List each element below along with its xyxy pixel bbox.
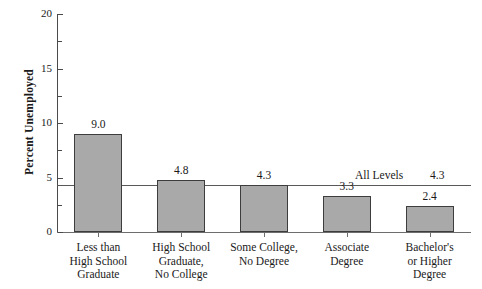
category-label-line: Degree bbox=[305, 255, 388, 269]
x-axis-category-label: AssociateDegree bbox=[305, 241, 388, 268]
y-tick-major bbox=[58, 14, 63, 15]
category-label-line: Bachelor's bbox=[388, 241, 471, 255]
x-tick bbox=[181, 233, 182, 237]
category-label-line: or Higher bbox=[388, 255, 471, 269]
category-label-line: Associate bbox=[305, 241, 388, 255]
category-label-line: High School bbox=[57, 255, 140, 269]
x-axis-category-label: High SchoolGraduate,No College bbox=[140, 241, 223, 282]
y-tick-label: 10 bbox=[30, 117, 52, 128]
x-tick bbox=[430, 233, 431, 237]
bar-value-label: 2.4 bbox=[400, 190, 460, 202]
bar-value-label: 9.0 bbox=[68, 118, 128, 130]
category-label-line: Less than bbox=[57, 241, 140, 255]
reference-line-value: 4.3 bbox=[430, 169, 444, 181]
y-tick-major bbox=[58, 123, 63, 124]
y-tick-minor bbox=[58, 96, 62, 97]
category-label-line: Some College, bbox=[223, 241, 306, 255]
y-tick-minor bbox=[58, 150, 62, 151]
bar-value-label: 3.3 bbox=[317, 180, 377, 192]
y-tick-minor bbox=[58, 41, 62, 42]
y-tick-major bbox=[58, 178, 63, 179]
category-label-line: Graduate bbox=[57, 268, 140, 282]
x-axis-category-label: Bachelor'sor HigherDegree bbox=[388, 241, 471, 282]
x-tick bbox=[98, 233, 99, 237]
y-tick-major bbox=[58, 69, 63, 70]
category-label-line: Graduate, bbox=[140, 255, 223, 269]
bar bbox=[74, 134, 122, 232]
x-tick bbox=[347, 233, 348, 237]
category-label-line: No College bbox=[140, 268, 223, 282]
y-tick-major bbox=[58, 232, 63, 233]
bar-value-label: 4.3 bbox=[234, 169, 294, 181]
bar-chart: Percent Unemployed 05101520 All Levels 4… bbox=[0, 0, 482, 289]
bar bbox=[406, 206, 454, 232]
bar bbox=[323, 196, 371, 232]
y-tick-label: 20 bbox=[30, 8, 52, 19]
category-label-line: High School bbox=[140, 241, 223, 255]
bar bbox=[240, 185, 288, 232]
y-tick-label: 0 bbox=[30, 226, 52, 237]
bar-value-label: 4.8 bbox=[151, 164, 211, 176]
y-tick-minor bbox=[58, 205, 62, 206]
category-label-line: No Degree bbox=[223, 255, 306, 269]
category-label-line: Degree bbox=[388, 268, 471, 282]
x-axis-category-label: Less thanHigh SchoolGraduate bbox=[57, 241, 140, 282]
y-tick-label: 15 bbox=[30, 63, 52, 74]
x-axis-category-label: Some College,No Degree bbox=[223, 241, 306, 268]
x-tick bbox=[264, 233, 265, 237]
y-tick-label: 5 bbox=[30, 172, 52, 183]
bar bbox=[157, 180, 205, 232]
